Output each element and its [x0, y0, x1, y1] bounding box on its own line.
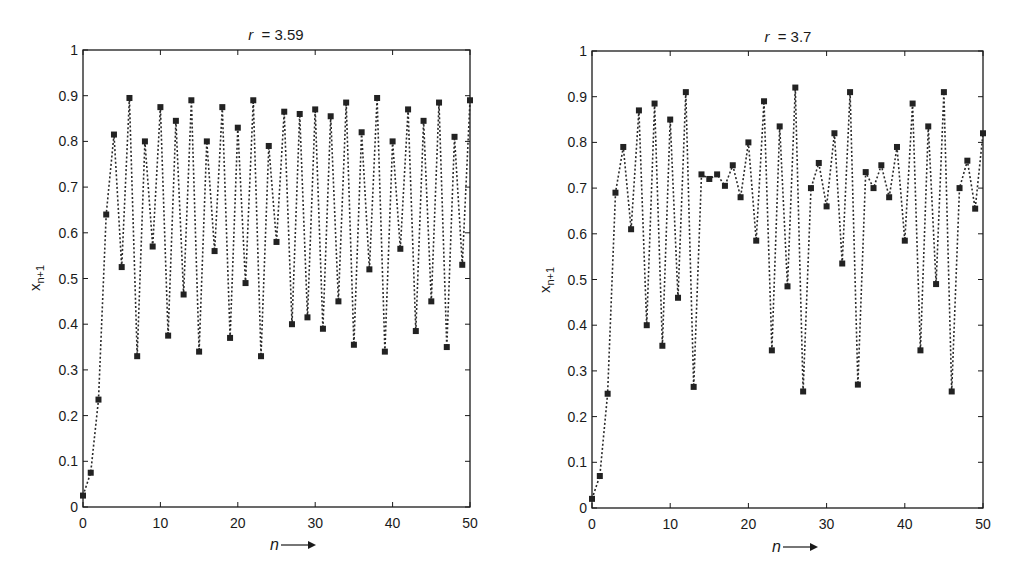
data-point-marker [413, 328, 419, 334]
y-tick-label: 0.2 [59, 408, 79, 424]
data-point-marker [366, 266, 372, 272]
data-point-marker [320, 326, 326, 332]
data-point-marker [266, 143, 272, 149]
data-point-marker [589, 496, 595, 502]
data-point-marker [382, 349, 388, 355]
y-tick-label: 0.4 [568, 317, 588, 333]
y-label-subscript: n+1 [544, 267, 556, 286]
y-axis-label: xn+1 [536, 267, 556, 293]
chart-title: r = 3.59 [248, 26, 303, 43]
data-point-marker [250, 97, 256, 103]
data-point-marker [675, 295, 681, 301]
data-point-marker [816, 160, 822, 166]
chart-title: r = 3.7 [765, 28, 812, 45]
data-point-marker [204, 138, 210, 144]
data-point-marker [698, 171, 704, 177]
data-point-marker [886, 194, 892, 200]
y-tick-label: 0.5 [59, 271, 79, 287]
data-point-marker [258, 353, 264, 359]
x-tick-label: 10 [662, 516, 678, 532]
chart-panel-r-3-7: r = 3.7 00.10.20.30.40.50.60.70.80.91 01… [536, 28, 991, 555]
y-tick-label: 1 [70, 42, 78, 58]
data-point-marker [421, 118, 427, 124]
data-point-marker [714, 171, 720, 177]
y-axis-label: xn+1 [26, 265, 46, 291]
data-point-marker [941, 89, 947, 95]
y-tick-label: 0.4 [59, 316, 79, 332]
data-point-marker [150, 244, 156, 250]
data-point-marker [405, 106, 411, 112]
series-line [83, 98, 470, 496]
chart-panel-r-3-59: r = 3.59 00.10.20.30.40.50.60.70.80.91 0… [26, 26, 478, 553]
y-tick-label: 0.5 [568, 272, 588, 288]
data-point-marker [894, 144, 900, 150]
data-point-marker [459, 262, 465, 268]
data-point-marker [824, 203, 830, 209]
x-tick-label: 50 [975, 516, 991, 532]
data-point-marker [134, 353, 140, 359]
data-point-marker [181, 291, 187, 297]
x-tick-label: 0 [79, 515, 87, 531]
data-point-marker [343, 100, 349, 106]
data-point-marker [933, 281, 939, 287]
data-point-marker [312, 106, 318, 112]
data-point-marker [691, 384, 697, 390]
data-point-marker [88, 470, 94, 476]
data-point-marker [957, 185, 963, 191]
y-tick-label: 0.8 [59, 133, 79, 149]
data-point-marker [644, 322, 650, 328]
data-point-marker [243, 280, 249, 286]
data-point-marker [612, 190, 618, 196]
data-point-marker [863, 169, 869, 175]
data-point-marker [188, 97, 194, 103]
data-point-marker [597, 473, 603, 479]
data-point-marker [839, 261, 845, 267]
data-point-marker [281, 109, 287, 115]
y-tick-label: 0 [579, 500, 587, 516]
y-tick-label: 0.3 [59, 362, 79, 378]
data-point-marker [335, 298, 341, 304]
data-point-marker [111, 132, 117, 138]
x-tick-label: 30 [819, 516, 835, 532]
x-tick-label: 40 [385, 515, 401, 531]
y-tick-label: 0.7 [568, 180, 588, 196]
data-point-marker [910, 101, 916, 107]
y-tick-label: 0.3 [568, 363, 588, 379]
x-axis-ticks: 01020304050 [79, 50, 478, 531]
data-point-marker [328, 113, 334, 119]
data-point-marker [925, 123, 931, 129]
x-tick-label: 40 [897, 516, 913, 532]
x-tick-label: 0 [588, 516, 596, 532]
data-point-marker [274, 239, 280, 245]
x-tick-label: 10 [153, 515, 169, 531]
data-point-marker [235, 125, 241, 131]
data-point-marker [605, 391, 611, 397]
data-point-marker [878, 162, 884, 168]
data-point-marker [949, 388, 955, 394]
data-point-marker [785, 283, 791, 289]
data-point-marker [659, 343, 665, 349]
arrow-right-icon [281, 541, 316, 549]
data-point-marker [452, 134, 458, 140]
y-tick-label: 0.8 [568, 134, 588, 150]
data-point-marker [917, 347, 923, 353]
data-point-marker [652, 101, 658, 107]
y-tick-label: 0.9 [59, 88, 79, 104]
data-point-marker [831, 130, 837, 136]
data-point-marker [730, 162, 736, 168]
data-point-marker [119, 264, 125, 270]
data-point-marker [800, 388, 806, 394]
data-point-marker [196, 349, 202, 355]
data-point-marker [103, 212, 109, 218]
arrow-right-icon [783, 543, 818, 551]
x-label-variable: n [270, 536, 279, 553]
x-tick-label: 20 [741, 516, 757, 532]
data-point-marker [304, 314, 310, 320]
data-point-marker [212, 248, 218, 254]
data-point-marker [428, 298, 434, 304]
data-point-marker [745, 139, 751, 145]
title-variable: r [765, 28, 771, 45]
data-point-marker [297, 111, 303, 117]
data-point-marker [964, 158, 970, 164]
y-tick-label: 0.2 [568, 409, 588, 425]
